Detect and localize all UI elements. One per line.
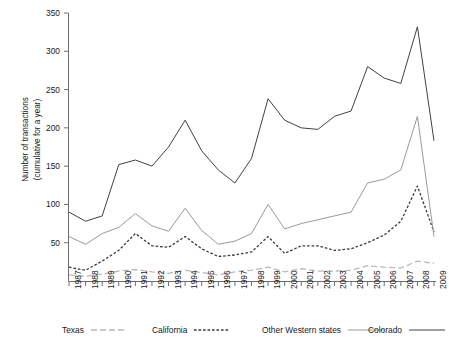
y-tick-label: 100: [34, 199, 60, 209]
data-series-layer: [69, 27, 434, 277]
y-tick-label: 250: [34, 85, 60, 95]
x-tick-label: 2005: [372, 270, 382, 289]
chart-legend: TexasCaliforniaOther Western statesColor…: [0, 322, 449, 342]
series-line-other-western-states: [69, 116, 434, 244]
x-tick-label: 2009: [438, 270, 448, 289]
x-tick-label: 2001: [305, 270, 315, 289]
y-axis-ticks: [64, 13, 69, 243]
legend-swatch-long-dash-icon: [91, 325, 127, 335]
x-tick-label: 2000: [289, 270, 299, 289]
x-tick-label: 1992: [156, 270, 166, 289]
x-tick-label: 1994: [189, 270, 199, 289]
series-line-california: [69, 186, 434, 270]
y-tick-label: 300: [34, 46, 60, 56]
x-tick-label: 1987: [73, 270, 83, 289]
x-tick-label: 2004: [355, 270, 365, 289]
x-tick-label: 1991: [139, 270, 149, 289]
plot-area: [0, 0, 449, 348]
legend-label: Texas: [62, 325, 84, 335]
x-tick-label: 2006: [388, 270, 398, 289]
x-tick-label: 1998: [256, 270, 266, 289]
legend-item-texas[interactable]: Texas: [62, 322, 127, 338]
x-tick-label: 1990: [123, 270, 133, 289]
x-tick-label: 2007: [405, 270, 415, 289]
legend-swatch-solid-icon: [409, 325, 445, 335]
chart-figure: Number of transactions (cumulative for a…: [0, 0, 449, 348]
x-tick-label: 1996: [222, 270, 232, 289]
axis-lines: [69, 13, 437, 282]
y-tick-label: 350: [34, 8, 60, 18]
y-tick-label: 150: [34, 161, 60, 171]
y-tick-label: 50: [34, 238, 60, 248]
legend-swatch-short-dash-icon: [194, 325, 230, 335]
legend-item-other-western-states[interactable]: Other Western states: [262, 322, 384, 338]
series-line-colorado: [69, 27, 434, 221]
x-tick-label: 1993: [173, 270, 183, 289]
x-tick-label: 2008: [421, 270, 431, 289]
legend-item-colorado[interactable]: Colorado: [368, 322, 445, 338]
legend-item-california[interactable]: California: [152, 322, 230, 338]
x-tick-label: 1988: [90, 270, 100, 289]
x-tick-label: 1989: [106, 270, 116, 289]
x-tick-label: 1997: [239, 270, 249, 289]
legend-label: California: [152, 325, 187, 335]
legend-label: Colorado: [368, 325, 402, 335]
legend-label: Other Western states: [262, 325, 341, 335]
x-tick-label: 2003: [338, 270, 348, 289]
x-tick-label: 1999: [272, 270, 282, 289]
y-tick-label: 200: [34, 123, 60, 133]
x-tick-label: 2002: [322, 270, 332, 289]
x-tick-label: 1995: [206, 270, 216, 289]
